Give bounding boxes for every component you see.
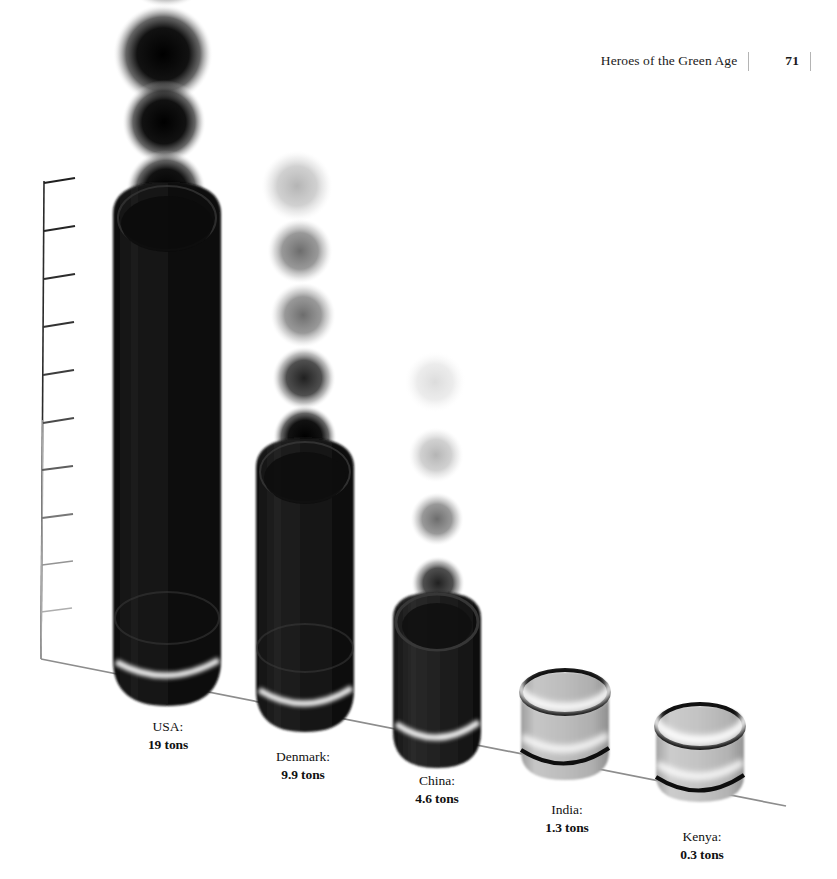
bar-label-kenya: Kenya: 0.3 tons xyxy=(622,828,782,864)
bar-denmark-mouth xyxy=(264,452,346,504)
y-axis-tick xyxy=(43,370,74,375)
bar-kenya[interactable] xyxy=(654,688,746,802)
smoke-puff xyxy=(270,282,336,348)
y-axis-spine-fade xyxy=(41,420,43,659)
bar-usa[interactable] xyxy=(113,182,221,706)
bar-label-usa-name: USA: xyxy=(88,718,248,736)
bar-china-mouth xyxy=(402,603,472,649)
bar-usa-mouth xyxy=(121,196,213,252)
smoke-puff xyxy=(272,346,336,410)
smoke-plume-china xyxy=(404,351,466,610)
smoke-puff xyxy=(408,427,464,483)
y-axis-tick xyxy=(42,561,73,565)
y-axis-tick xyxy=(42,466,73,470)
bar-china[interactable] xyxy=(393,592,481,768)
bar-denmark[interactable] xyxy=(256,438,354,732)
y-axis-tick xyxy=(43,322,74,327)
y-axis-tick xyxy=(41,608,72,612)
smoke-puff xyxy=(410,492,464,546)
y-axis-ticks xyxy=(41,178,75,612)
smoke-puff xyxy=(267,218,333,284)
y-axis-tick xyxy=(44,274,75,279)
bar-label-china-name: China: xyxy=(357,772,517,790)
bar-label-kenya-value: 0.3 tons xyxy=(622,846,782,864)
y-axis-tick xyxy=(43,418,74,423)
smoke-puff xyxy=(404,351,466,413)
bar-label-kenya-name: Kenya: xyxy=(622,828,782,846)
bar-usa-body xyxy=(113,182,221,706)
emissions-chart: USA: 19 tons Denmark: 9.9 tons China: 4.… xyxy=(0,0,837,879)
y-axis-tick xyxy=(44,226,75,231)
y-axis-tick xyxy=(44,178,75,183)
bar-label-india-name: India: xyxy=(487,801,647,819)
bar-india[interactable] xyxy=(519,659,611,780)
y-axis-tick xyxy=(42,514,73,518)
bar-kenya-body xyxy=(656,706,744,802)
smoke-puff xyxy=(261,150,333,222)
smoke-plume-denmark xyxy=(261,150,337,469)
bar-label-denmark-name: Denmark: xyxy=(223,748,383,766)
